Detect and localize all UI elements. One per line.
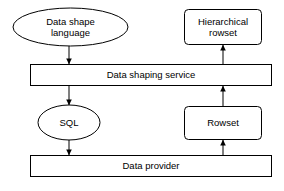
- node-hierarchical-rowset[interactable]: [185, 10, 262, 45]
- node-data-shaping-service[interactable]: [31, 65, 272, 86]
- diagram-graphics-layer: [0, 0, 284, 191]
- node-sql[interactable]: [38, 105, 100, 140]
- node-data-provider[interactable]: [31, 156, 272, 177]
- node-rowset[interactable]: [185, 107, 262, 140]
- diagram-canvas: Data shape language Hierarchical rowset …: [0, 0, 284, 191]
- node-data-shape-language[interactable]: [13, 8, 128, 46]
